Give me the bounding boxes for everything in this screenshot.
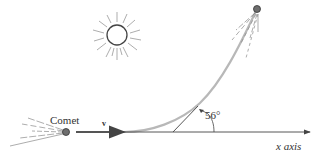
- angle-label: 56°: [205, 109, 220, 121]
- comet-icon: [63, 129, 70, 136]
- comet-trajectory-diagram: 56° x axis Comet v: [0, 0, 319, 158]
- sun-icon: [93, 12, 141, 60]
- x-axis-label: x axis: [275, 140, 301, 152]
- velocity-label: v: [102, 119, 106, 128]
- comet-label: Comet: [50, 114, 79, 126]
- comet-icon: [254, 6, 261, 13]
